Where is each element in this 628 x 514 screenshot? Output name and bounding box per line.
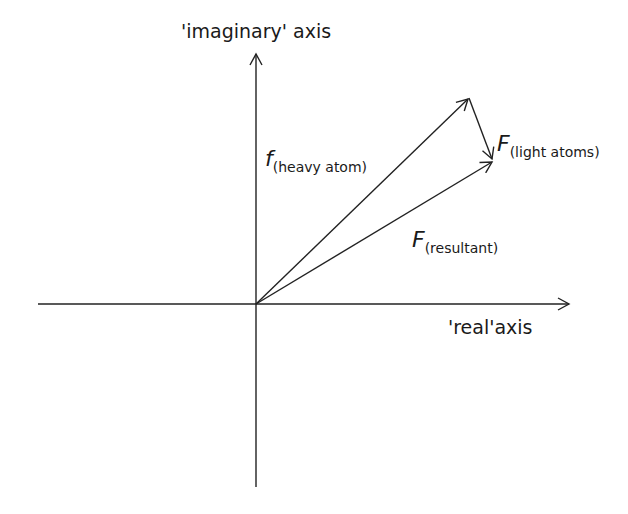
imaginary-axis-label: 'imaginary' axis [181, 20, 331, 42]
light-atoms-vector [469, 98, 492, 159]
heavy-atom-vector [256, 99, 468, 304]
light-atoms-label: F(light atoms) [497, 131, 600, 156]
heavy-atom-subscript: (heavy atom) [273, 159, 367, 175]
resultant-subscript: (resultant) [425, 240, 498, 256]
light-atoms-subscript: (light atoms) [510, 144, 600, 160]
heavy-atom-symbol: f [265, 146, 273, 171]
real-axis-label: 'real'axis [448, 316, 533, 338]
argand-diagram: 'imaginary' axis 'real'axis f(heavy atom… [0, 0, 628, 514]
resultant-symbol: F [412, 227, 425, 252]
light-atoms-symbol: F [497, 131, 510, 156]
heavy-atom-label: f(heavy atom) [265, 146, 367, 171]
resultant-label: F(resultant) [412, 227, 498, 252]
vector-diagram-graphic [0, 0, 628, 514]
